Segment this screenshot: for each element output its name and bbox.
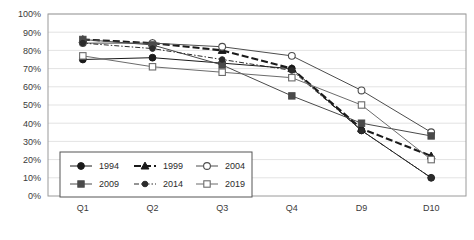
data-point-2004-Q4 (288, 52, 295, 59)
x-axis-tick-label: D10 (423, 203, 440, 213)
legend-label-2019: 2019 (225, 179, 245, 189)
y-axis-tick-label: 0% (28, 191, 41, 201)
data-point-2019-Q1 (80, 53, 86, 59)
data-point-2009-D9 (358, 120, 364, 126)
legend-label-2004: 2004 (225, 161, 245, 171)
data-point-2014-Q1 (80, 40, 86, 46)
y-axis-tick-label: 40% (23, 119, 41, 129)
y-axis-tick-label: 80% (23, 46, 41, 56)
y-axis-tick-label: 30% (23, 137, 41, 147)
x-axis-tick-label: Q3 (216, 203, 228, 213)
data-point-2019-Q2 (149, 64, 155, 70)
legend-label-2014: 2014 (163, 179, 183, 189)
legend-box (60, 152, 252, 197)
chart-canvas: 100%90%80%70%60%50%40%30%20%10%0%Q1Q2Q3Q… (0, 0, 474, 240)
y-axis-tick-label: 90% (23, 28, 41, 38)
y-axis-tick-label: 10% (23, 173, 41, 183)
data-point-2014-Q2 (150, 46, 156, 52)
legend-marker-2014 (142, 181, 148, 187)
y-axis-tick-label: 20% (23, 155, 41, 165)
legend-marker-2019 (204, 181, 210, 187)
data-point-2019-Q3 (219, 69, 225, 75)
data-point-2009-D10 (428, 133, 434, 139)
legend-label-1994: 1994 (99, 161, 119, 171)
data-point-2014-Q3 (219, 57, 225, 63)
legend-label-1999: 1999 (163, 161, 183, 171)
data-point-1994-Q2 (149, 54, 156, 61)
data-point-2009-Q4 (289, 93, 295, 99)
x-axis-tick-label: Q4 (286, 203, 298, 213)
x-axis-tick-label: Q2 (146, 203, 158, 213)
legend-marker-1994 (78, 163, 85, 170)
y-axis-tick-label: 50% (23, 100, 41, 110)
line-chart: 100%90%80%70%60%50%40%30%20%10%0%Q1Q2Q3Q… (0, 0, 474, 240)
data-point-2019-D10 (428, 156, 434, 162)
legend-marker-2009 (78, 181, 84, 187)
data-point-2014-D9 (359, 128, 365, 134)
y-axis-tick-label: 70% (23, 64, 41, 74)
data-point-2019-Q4 (289, 75, 295, 81)
data-point-2004-Q3 (219, 43, 226, 50)
y-axis-tick-label: 100% (18, 9, 41, 19)
x-axis-tick-label: D9 (356, 203, 368, 213)
x-axis-tick-label: Q1 (77, 203, 89, 213)
legend-marker-2004 (204, 163, 211, 170)
legend-label-2009: 2009 (99, 179, 119, 189)
data-point-2019-D9 (358, 102, 364, 108)
data-point-2014-Q4 (289, 68, 295, 74)
data-point-2004-D9 (358, 87, 365, 94)
y-axis-tick-label: 60% (23, 82, 41, 92)
data-point-2014-D10 (428, 175, 434, 181)
